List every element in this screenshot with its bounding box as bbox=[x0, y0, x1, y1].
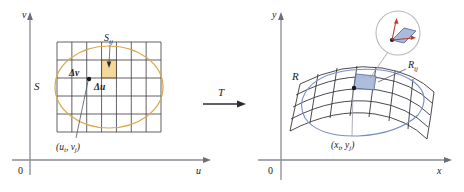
uv-plane-panel: v u 0 bbox=[12, 9, 211, 176]
transform-label-t: T bbox=[218, 86, 225, 98]
uv-sample-point-dot bbox=[87, 77, 91, 81]
math-diagram-svg: v u 0 bbox=[0, 0, 464, 192]
u-axis bbox=[12, 157, 211, 163]
subregion-sij-label: Sij bbox=[104, 32, 113, 46]
y-axis bbox=[278, 12, 284, 180]
xy-point-label: (xi, yj) bbox=[331, 140, 354, 152]
xy-sample-point-dot bbox=[352, 86, 356, 90]
xy-plane-panel: y x 0 bbox=[258, 9, 452, 180]
transform-arrow-group: T bbox=[203, 86, 246, 107]
x-axis-label: x bbox=[436, 165, 442, 176]
uv-point-label: (ui, vj) bbox=[56, 142, 80, 154]
inset-leader-line bbox=[370, 52, 388, 78]
y-axis-label: y bbox=[271, 9, 277, 20]
uv-point-leader bbox=[76, 81, 88, 138]
v-axis-label: v bbox=[22, 9, 27, 20]
uv-grid bbox=[57, 42, 161, 132]
x-axis bbox=[258, 157, 452, 163]
delta-v-label: Δv bbox=[68, 68, 80, 78]
figure-container: v u 0 bbox=[0, 0, 464, 192]
surface-patch-rij bbox=[354, 74, 376, 90]
delta-u-label: Δu bbox=[93, 82, 105, 92]
magnifier-inset bbox=[376, 11, 420, 55]
u-axis-label: u bbox=[196, 165, 201, 176]
region-r-label: R bbox=[291, 70, 299, 82]
v-axis bbox=[27, 12, 33, 175]
xy-origin-label: 0 bbox=[268, 165, 273, 176]
uv-origin-label: 0 bbox=[18, 165, 23, 176]
subregion-rij-label: Rij bbox=[407, 59, 418, 73]
region-s-label: S bbox=[34, 80, 40, 92]
